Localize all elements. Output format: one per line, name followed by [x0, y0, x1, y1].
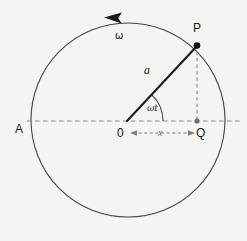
- label-radius-a: a: [144, 64, 150, 76]
- rotation-direction-arrowhead-icon: [104, 13, 122, 24]
- label-displacement-x: x: [158, 128, 162, 138]
- displacement-arrowhead-right-icon: [188, 130, 195, 136]
- label-point-a: A: [15, 123, 23, 135]
- label-origin: 0: [117, 127, 124, 139]
- figure-canvas: P Q A 0 a ωt ω x: [0, 0, 247, 241]
- label-point-p: P: [193, 22, 201, 34]
- label-point-q: Q: [196, 127, 205, 139]
- label-angle-omega-t: ωt: [147, 104, 158, 113]
- radius-vector-op: [127, 46, 197, 121]
- circular-motion-diagram: [0, 0, 247, 241]
- label-angular-velocity-omega: ω: [115, 31, 123, 41]
- point-marker-q: [194, 118, 199, 123]
- point-marker-p: [194, 42, 201, 49]
- displacement-arrowhead-left-icon: [130, 130, 137, 136]
